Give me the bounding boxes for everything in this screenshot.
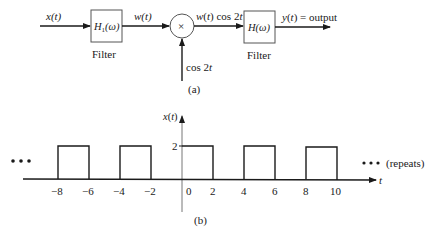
tick-label: −4 (113, 185, 125, 197)
block-diagram: x(t) H1(ω) Filter w(t) × cos 2t w(t) cos… (40, 10, 337, 96)
figure-canvas: x(t) H1(ω) Filter w(t) × cos 2t w(t) cos… (0, 0, 433, 238)
x-axis (23, 179, 376, 180)
left-ellipsis-icon (11, 159, 31, 163)
filter1-caption: Filter (92, 48, 116, 60)
repeats-label: (repeats) (386, 157, 425, 170)
product-label: w(t) cos 2t (196, 10, 243, 23)
tick-label: −6 (82, 185, 94, 197)
caption-b: (b) (194, 214, 207, 227)
amplitude-label: 2 (172, 140, 178, 152)
filter2-caption: Filter (247, 49, 271, 61)
tick-label: 10 (330, 185, 342, 197)
tick-label: −2 (144, 185, 156, 197)
tick-label: 8 (303, 185, 309, 197)
intermediate-label: w(t) (134, 10, 152, 23)
x-tick-labels: −8 −6 −4 −2 0 2 4 6 8 10 (51, 185, 342, 197)
tick-label: 6 (272, 185, 278, 197)
tick-label: 2 (210, 185, 216, 197)
tick-label: −8 (51, 185, 63, 197)
output-label: y(t) = output (281, 11, 337, 24)
pulse-train-plot: x(t) t 2 −8 −6 −4 −2 0 2 4 6 8 10 (repe (11, 111, 425, 227)
caption-a: (a) (188, 83, 201, 96)
x-axis-label: t (379, 174, 383, 186)
right-ellipsis-icon (362, 161, 379, 164)
y-axis-label: x(t) (162, 111, 178, 123)
carrier-label: cos 2t (186, 61, 213, 73)
multiplier-icon: × (178, 20, 184, 32)
filter2-symbol: H(ω) (247, 22, 271, 34)
input-label: x(t) (45, 10, 62, 23)
pulse-waveform (58, 146, 337, 180)
tick-label: 4 (241, 185, 247, 197)
tick-label: 0 (186, 185, 192, 197)
